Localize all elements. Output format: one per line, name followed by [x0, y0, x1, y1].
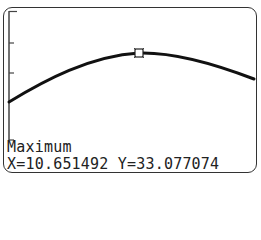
coordinate-readout: X=10.651492 Y=33.077074 [7, 156, 219, 172]
calc-result-label: Maximum [7, 139, 72, 155]
trace-cursor-icon [134, 48, 144, 58]
function-curve [9, 53, 254, 102]
